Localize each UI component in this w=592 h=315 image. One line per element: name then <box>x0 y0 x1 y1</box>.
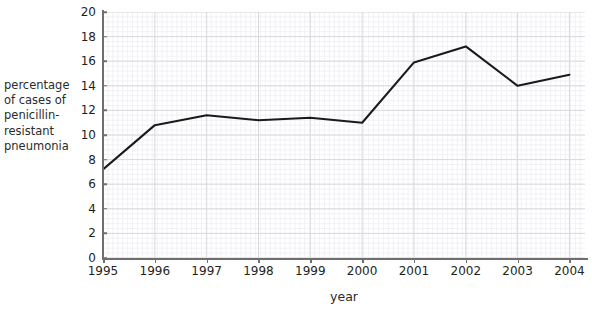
x-tick-label: 1996 <box>132 264 178 278</box>
y-tick-label: 8 <box>74 153 96 167</box>
y-tick-mark <box>102 110 107 112</box>
y-tick-label: 14 <box>74 79 96 93</box>
y-tick-mark <box>102 134 107 136</box>
data-series-line <box>103 12 585 258</box>
x-tick-mark <box>258 258 260 263</box>
y-tick-label: 10 <box>74 128 96 142</box>
x-tick-mark <box>155 258 157 263</box>
y-tick-label: 16 <box>74 54 96 68</box>
y-tick-label: 4 <box>74 202 96 216</box>
y-tick-mark <box>102 11 107 13</box>
y-tick-mark <box>102 85 107 87</box>
plot-area <box>103 12 585 258</box>
x-tick-mark <box>310 258 312 263</box>
x-tick-label: 1998 <box>235 264 281 278</box>
x-tick-mark <box>362 258 364 263</box>
x-tick-mark <box>414 258 416 263</box>
y-tick-mark <box>102 60 107 62</box>
y-tick-label: 12 <box>74 103 96 117</box>
y-tick-label: 0 <box>74 251 96 265</box>
y-tick-mark <box>102 159 107 161</box>
y-tick-label: 2 <box>74 226 96 240</box>
y-tick-mark <box>102 208 107 210</box>
x-tick-label: 2003 <box>495 264 541 278</box>
x-axis-title: year <box>103 289 585 304</box>
x-tick-label: 2000 <box>339 264 385 278</box>
x-tick-mark <box>103 258 105 263</box>
x-tick-mark <box>569 258 571 263</box>
x-tick-label: 2002 <box>443 264 489 278</box>
y-tick-mark <box>102 183 107 185</box>
x-tick-label: 2004 <box>546 264 592 278</box>
x-axis-line <box>102 258 588 260</box>
x-tick-mark <box>207 258 209 263</box>
y-tick-label: 20 <box>74 5 96 19</box>
x-tick-mark <box>518 258 520 263</box>
x-tick-mark <box>466 258 468 263</box>
y-tick-label: 18 <box>74 30 96 44</box>
x-tick-label: 1995 <box>80 264 126 278</box>
y-tick-mark <box>102 36 107 38</box>
y-tick-label: 6 <box>74 177 96 191</box>
x-tick-label: 2001 <box>391 264 437 278</box>
y-axis-title: percentage of cases of penicillin- resis… <box>4 78 82 154</box>
y-tick-mark <box>102 233 107 235</box>
x-tick-label: 1999 <box>287 264 333 278</box>
x-tick-label: 1997 <box>184 264 230 278</box>
line-chart-figure: percentage of cases of penicillin- resis… <box>0 0 592 315</box>
